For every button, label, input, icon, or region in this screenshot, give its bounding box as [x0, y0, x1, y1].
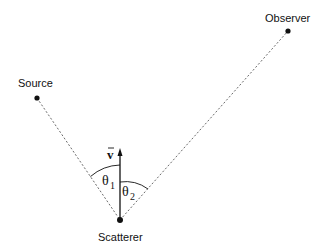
- source-point: [34, 95, 39, 100]
- theta1-subscript: 1: [110, 180, 115, 191]
- observer-point: [285, 28, 290, 33]
- theta1-symbol: θ: [102, 173, 109, 188]
- scatterer-point: [117, 217, 123, 223]
- scattering-diagram: Source Observer Scatterer v θ 1 θ 2: [0, 0, 325, 251]
- theta2-symbol: θ: [122, 184, 129, 199]
- scatterer-to-observer-line: [120, 31, 288, 220]
- theta2-subscript: 2: [130, 191, 135, 202]
- source-label: Source: [18, 77, 53, 89]
- diagram-svg: Source Observer Scatterer v θ 1 θ 2: [0, 0, 325, 251]
- observer-label: Observer: [265, 12, 311, 24]
- velocity-arrowhead-icon: [118, 148, 123, 156]
- scatterer-label: Scatterer: [98, 231, 143, 243]
- velocity-label: v: [107, 147, 114, 162]
